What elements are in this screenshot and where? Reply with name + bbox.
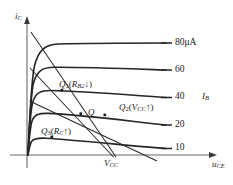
family-label-sub: B [205, 94, 209, 101]
family-label-ib: IB [202, 92, 209, 102]
q1-label: Q1(RB2↓) [59, 80, 92, 90]
q2-label: Q2(VCC↑) [119, 103, 153, 113]
y-axis-label: iC [15, 12, 22, 22]
q-point-marker-q [80, 112, 83, 115]
curve-ib-10 [28, 138, 166, 155]
x-axis-arrow [209, 152, 217, 158]
curve-label-80ua: 80μA [175, 38, 196, 48]
curve-label-20: 20 [175, 120, 185, 130]
curve-tick-group [161, 43, 172, 149]
transistor-characteristic-chart [0, 0, 233, 185]
curve-label-10: 10 [175, 143, 185, 153]
y-axis-arrow [24, 16, 30, 24]
curve-label-60: 60 [175, 65, 185, 75]
curve-label-80ua-unit: μA [185, 37, 197, 47]
q-point-marker-2 [104, 114, 107, 117]
vcc-marker-sub: CC [110, 161, 119, 168]
y-axis-label-sub: C [18, 14, 22, 21]
x-axis-label-sub: CE [217, 162, 225, 169]
x-axis-label: uCE [212, 160, 225, 170]
q-label: Q [88, 108, 95, 117]
curve-label-80ua-value: 80 [175, 37, 185, 47]
vcc-marker-label: VCC [104, 159, 118, 169]
q3-label: Q3(RC↑) [41, 127, 71, 137]
characteristic-curves-group [28, 43, 166, 155]
q2-param-sub: CC [137, 105, 146, 112]
curve-label-40: 40 [175, 92, 185, 102]
